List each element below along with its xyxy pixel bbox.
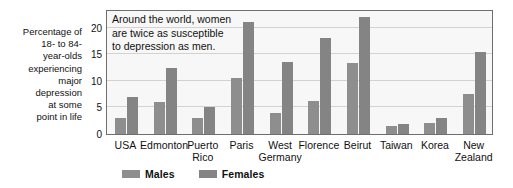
y-tick-label: 15 bbox=[84, 50, 102, 60]
bar-females-west-germany bbox=[282, 62, 293, 134]
y-axis-label-line: major bbox=[4, 75, 82, 87]
annotation-line: are twice as susceptible bbox=[112, 27, 302, 41]
bar-females-korea bbox=[436, 118, 447, 134]
bar-males-new-zealand bbox=[463, 94, 474, 134]
bar-males-beirut bbox=[347, 63, 358, 134]
bar-males-edmonton bbox=[154, 102, 165, 134]
legend-swatch-males bbox=[122, 170, 140, 178]
bar-males-florence bbox=[308, 101, 319, 135]
bar-males-west-germany bbox=[270, 113, 281, 134]
y-tick-label: 10 bbox=[84, 77, 102, 87]
legend-item-females: Females bbox=[199, 168, 265, 180]
bar-males-paris bbox=[231, 78, 242, 134]
y-axis-label: Percentage of 18- to 84- year-olds exper… bbox=[4, 26, 82, 124]
bar-females-new-zealand bbox=[475, 52, 486, 134]
bar-females-usa bbox=[127, 97, 138, 134]
chart-legend: Males Females bbox=[122, 168, 282, 180]
y-axis-label-line: year-olds bbox=[4, 50, 82, 62]
annotation-line: Around the world, women bbox=[112, 13, 302, 27]
y-axis-label-line: experiencing bbox=[4, 63, 82, 75]
y-tick-label: 5 bbox=[84, 103, 102, 113]
chart-figure: Percentage of 18- to 84- year-olds exper… bbox=[0, 0, 513, 188]
bar-females-puerto-rico bbox=[204, 107, 215, 134]
legend-item-males: Males bbox=[122, 168, 175, 180]
bar-females-florence bbox=[320, 38, 331, 134]
bar-males-korea bbox=[424, 123, 435, 134]
chart-annotation: Around the world, women are twice as sus… bbox=[112, 13, 302, 54]
legend-label-males: Males bbox=[145, 168, 175, 180]
y-tick-label: 20 bbox=[84, 24, 102, 34]
x-tick-label-line: Rico bbox=[169, 151, 237, 163]
x-tick-label-line: New bbox=[440, 139, 508, 151]
annotation-line: to depression as men. bbox=[112, 40, 302, 54]
x-tick-label-line: Zealand bbox=[440, 151, 508, 163]
bar-males-usa bbox=[115, 118, 126, 134]
y-axis-label-line: 18- to 84- bbox=[4, 38, 82, 50]
bar-females-beirut bbox=[359, 17, 370, 134]
y-axis-label-line: depression bbox=[4, 87, 82, 99]
bar-females-edmonton bbox=[166, 68, 177, 134]
bar-males-puerto-rico bbox=[192, 118, 203, 134]
y-axis-label-line: point in life bbox=[4, 111, 82, 123]
bar-females-taiwan bbox=[398, 124, 409, 134]
x-tick-label-line: Germany bbox=[246, 151, 314, 163]
x-tick-label: NewZealand bbox=[440, 139, 508, 163]
y-axis-label-line: at some bbox=[4, 99, 82, 111]
bar-males-taiwan bbox=[386, 126, 397, 134]
legend-swatch-females bbox=[199, 170, 217, 178]
y-axis-label-line: Percentage of bbox=[4, 26, 82, 38]
legend-label-females: Females bbox=[222, 168, 265, 180]
